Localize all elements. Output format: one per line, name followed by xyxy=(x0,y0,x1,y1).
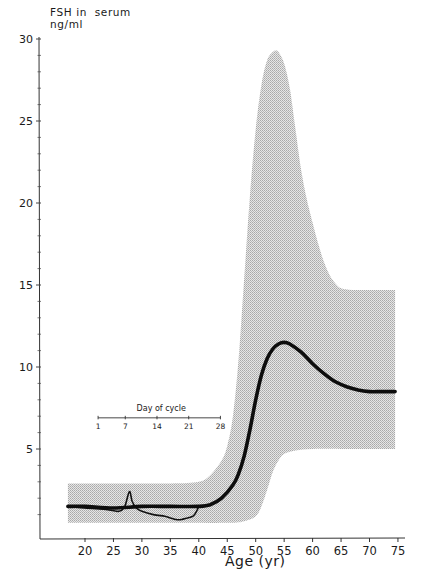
y-tick-label: 15 xyxy=(19,279,33,292)
y-tick-label: 20 xyxy=(19,197,33,210)
fsh-age-chart: 51015202530202530354045505560657075 Day … xyxy=(0,0,430,578)
inset-axis-title: Day of cycle xyxy=(137,404,186,413)
inset-tick-label: 28 xyxy=(216,422,226,431)
x-tick-label: 75 xyxy=(391,544,406,558)
x-tick-label: 70 xyxy=(362,544,377,558)
x-tick-label: 25 xyxy=(106,544,121,558)
x-axis-line xyxy=(40,538,405,539)
x-tick-label: 45 xyxy=(220,544,235,558)
y-tick-label: 10 xyxy=(19,361,33,374)
x-tick-label: 55 xyxy=(277,544,292,558)
x-tick-label: 40 xyxy=(191,544,206,558)
y-tick-label: 25 xyxy=(19,115,33,128)
y-axis-line xyxy=(39,37,40,539)
inset-tick-label: 7 xyxy=(123,422,128,431)
y-tick-label: 30 xyxy=(19,33,33,46)
range-band xyxy=(68,50,395,523)
x-tick-label: 60 xyxy=(305,544,320,558)
x-tick-label: 20 xyxy=(78,544,93,558)
x-tick-label: 50 xyxy=(248,544,263,558)
inset-tick-label: 14 xyxy=(152,422,162,431)
y-tick-label: 5 xyxy=(26,443,33,456)
inset-tick-label: 1 xyxy=(96,422,101,431)
inset-tick-label: 21 xyxy=(184,422,194,431)
x-tick-label: 35 xyxy=(163,544,178,558)
day-of-cycle-inset-axis: Day of cycle17142128 xyxy=(96,404,226,431)
normal-range-band xyxy=(68,50,395,523)
x-tick-label: 30 xyxy=(135,544,150,558)
x-tick-label: 65 xyxy=(334,544,349,558)
